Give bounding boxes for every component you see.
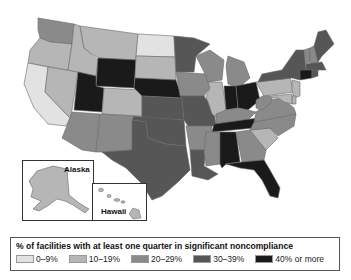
state-mi xyxy=(226,56,250,88)
legend-label: 40% or more xyxy=(275,254,324,264)
legend-items: 0–9% 10–19% 20–29% 30–39% 40% or more xyxy=(16,254,334,264)
state-ks xyxy=(142,96,184,120)
state-fl xyxy=(226,160,280,198)
state-de xyxy=(292,96,296,104)
state-ms xyxy=(204,132,220,166)
state-nd xyxy=(136,34,175,57)
state-sd xyxy=(135,56,176,80)
legend-swatch xyxy=(16,255,34,263)
hawaii-inset: Hawaii xyxy=(92,183,147,221)
state-in xyxy=(224,86,238,110)
legend-item-40-plus: 40% or more xyxy=(255,254,324,264)
legend: % of facilities with at least one quarte… xyxy=(10,237,340,271)
state-ma xyxy=(306,62,326,70)
legend-swatch xyxy=(69,255,87,263)
legend-label: 10–19% xyxy=(89,254,120,264)
legend-item-0-9: 0–9% xyxy=(16,254,58,264)
legend-swatch xyxy=(131,255,149,263)
legend-item-20-29: 20–29% xyxy=(131,254,182,264)
legend-swatch xyxy=(255,255,273,263)
hawaii-label: Hawaii xyxy=(101,207,126,216)
legend-item-10-19: 10–19% xyxy=(69,254,120,264)
legend-label: 30–39% xyxy=(213,254,244,264)
state-ri xyxy=(312,70,318,78)
alaska-label: Alaska xyxy=(64,165,90,174)
state-co xyxy=(102,88,142,116)
state-ct xyxy=(300,70,312,80)
state-me xyxy=(314,30,334,62)
legend-item-30-39: 30–39% xyxy=(193,254,244,264)
state-wy xyxy=(96,58,136,88)
state-ny xyxy=(258,50,306,82)
state-nj xyxy=(292,80,300,98)
state-ia xyxy=(176,72,210,96)
legend-title: % of facilities with at least one quarte… xyxy=(16,241,334,251)
alaska-inset: Alaska xyxy=(22,160,94,221)
legend-label: 0–9% xyxy=(36,254,58,264)
legend-swatch xyxy=(193,255,211,263)
state-ne xyxy=(134,78,182,98)
legend-label: 20–29% xyxy=(151,254,182,264)
state-nm xyxy=(96,114,134,152)
